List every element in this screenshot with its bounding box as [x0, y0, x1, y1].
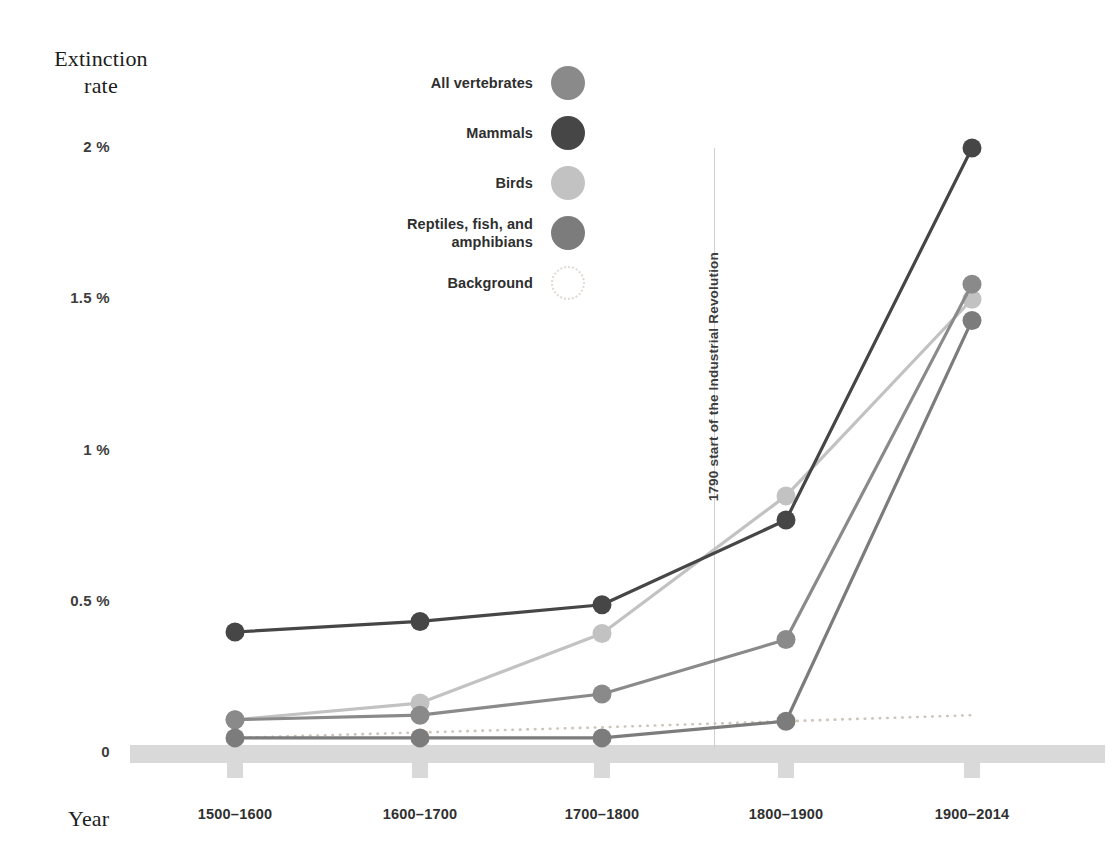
data-point[interactable]: [963, 275, 982, 294]
legend-swatch-icon: [551, 216, 585, 250]
legend-item-label: Reptiles, fish, and amphibians: [370, 215, 533, 251]
data-point[interactable]: [411, 706, 430, 725]
data-point[interactable]: [777, 486, 796, 505]
extinction-rate-chart: Extinction rate Year 00.5 %1 %1.5 %2 % 1…: [0, 0, 1116, 861]
legend-swatch-icon: [551, 66, 585, 100]
data-point[interactable]: [593, 624, 612, 643]
data-point[interactable]: [777, 511, 796, 530]
data-point[interactable]: [963, 139, 982, 158]
legend: All vertebratesMammalsBirdsReptiles, fis…: [370, 58, 585, 308]
data-point[interactable]: [411, 728, 430, 747]
data-point[interactable]: [963, 311, 982, 330]
legend-swatch-icon: [551, 166, 585, 200]
series-line-reptiles-fish-and-amphibians: [235, 320, 972, 737]
series-line-all-vertebrates: [235, 284, 972, 720]
legend-item[interactable]: Background: [370, 258, 585, 308]
legend-swatch-icon: [551, 266, 585, 300]
data-point[interactable]: [226, 728, 245, 747]
legend-item[interactable]: Reptiles, fish, and amphibians: [370, 208, 585, 258]
legend-item[interactable]: Mammals: [370, 108, 585, 158]
legend-item-label: Mammals: [466, 124, 533, 142]
legend-item-label: All vertebrates: [431, 74, 533, 92]
data-point[interactable]: [411, 612, 430, 631]
legend-item-label: Background: [447, 274, 533, 292]
data-point[interactable]: [777, 630, 796, 649]
data-point[interactable]: [593, 595, 612, 614]
legend-swatch-icon: [551, 116, 585, 150]
legend-item[interactable]: Birds: [370, 158, 585, 208]
legend-item-label: Birds: [495, 174, 533, 192]
legend-item[interactable]: All vertebrates: [370, 58, 585, 108]
data-point[interactable]: [777, 712, 796, 731]
data-point[interactable]: [226, 710, 245, 729]
series-line-birds: [235, 299, 972, 719]
data-point[interactable]: [226, 623, 245, 642]
data-point[interactable]: [593, 728, 612, 747]
data-point[interactable]: [593, 685, 612, 704]
